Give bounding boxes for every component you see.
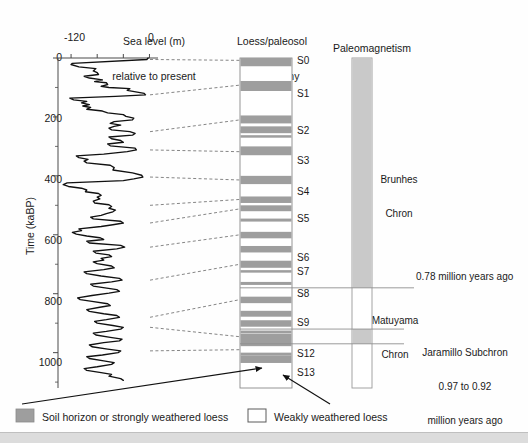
correlation-line-0	[150, 59, 240, 60]
soil-subband-3	[241, 270, 292, 273]
soil-band-s8	[241, 261, 292, 268]
soil-band-s0	[241, 58, 292, 66]
correlation-line-9	[150, 300, 240, 318]
soil-subband-0	[241, 130, 292, 133]
soil-band-s4	[241, 176, 292, 184]
soil-band-s5	[241, 196, 292, 202]
soil-band-s9	[241, 297, 292, 303]
soil-band-s12	[241, 333, 292, 346]
correlation-line-11	[150, 350, 240, 351]
soil-subband-2	[241, 219, 292, 222]
correlation-line-2	[150, 120, 240, 132]
legend-swatch-loess	[248, 409, 266, 422]
correlation-line-3	[150, 150, 240, 152]
correlation-line-10	[150, 327, 240, 336]
correlation-line-6	[150, 209, 240, 223]
soil-band-s7	[241, 246, 292, 252]
soil-subband-6	[241, 353, 292, 356]
legend-swatch-soil	[16, 409, 34, 422]
polarity-normal-brunhes	[353, 58, 372, 288]
correlation-line-1	[150, 85, 240, 95]
correlation-line-5	[150, 199, 240, 205]
correlation-line-7	[150, 235, 240, 247]
bottom-scan-artifact	[0, 432, 528, 443]
correlation-line-4	[150, 177, 240, 180]
soil-band-s13	[241, 356, 292, 363]
soil-band-s2	[241, 115, 292, 123]
soil-band-s5b	[241, 205, 292, 211]
polarity-normal-jaramillo	[353, 329, 372, 344]
soil-subband-1	[241, 135, 292, 138]
soil-subband-4	[241, 282, 292, 285]
sea-level-curve	[63, 58, 148, 380]
soil-band-s11	[241, 320, 292, 326]
legend-arrow-loess	[283, 375, 330, 404]
correlation-line-8	[150, 264, 240, 280]
soil-band-s10	[241, 311, 292, 317]
soil-band-s1	[241, 81, 292, 91]
soil-band-s6	[241, 232, 292, 238]
soil-subband-5	[241, 331, 292, 334]
soil-band-s3	[241, 146, 292, 155]
